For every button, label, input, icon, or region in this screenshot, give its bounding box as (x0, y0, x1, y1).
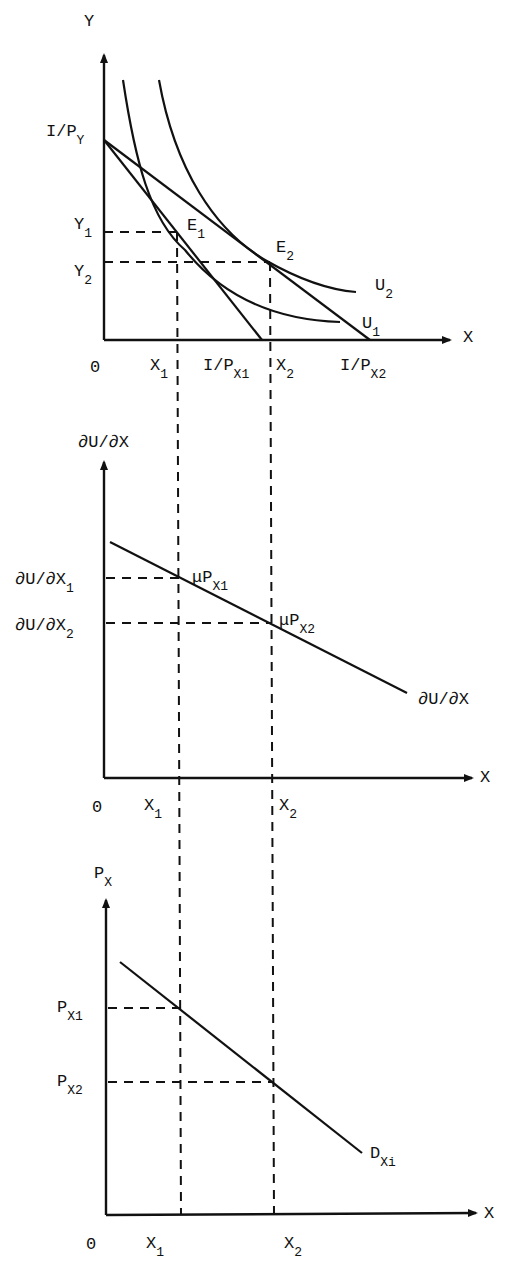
x-axis-label: X (480, 768, 490, 787)
y2-label: Y2 (74, 262, 92, 288)
demand-curve (120, 962, 362, 1153)
mu2-label: ∂U/∂X2 (15, 616, 74, 642)
intercept-y-label: I/PY (46, 122, 85, 148)
x2-label: X2 (279, 796, 297, 822)
p2-label: PX2 (57, 1072, 83, 1098)
y-axis-label: Y (84, 12, 94, 31)
x2-label: X2 (284, 1234, 302, 1260)
origin-label: 0 (90, 358, 100, 377)
intercept-x1-label: I/PX1 (203, 356, 249, 382)
y1-label: Y1 (74, 215, 92, 241)
point1-label: μPX1 (192, 568, 228, 594)
x1-label: X1 (146, 1234, 164, 1260)
panel-indifference: Y X 0 I/PY Y1 Y2 E1 E2 U2 U1 X1 I/PX1 X2… (46, 12, 473, 382)
x1-label: X1 (144, 796, 162, 822)
origin-label: 0 (92, 798, 102, 817)
origin-label: 0 (86, 1235, 96, 1254)
y-axis-label: PX (94, 864, 112, 890)
u2-label: U2 (375, 276, 393, 302)
y-axis-label: ∂U/∂X (78, 433, 129, 452)
indifference-curve-u2 (159, 80, 356, 292)
curve-label: ∂U/∂X (418, 690, 469, 709)
x2-vertical-guide (270, 262, 274, 1215)
p1-label: PX1 (57, 998, 83, 1024)
point2-label: μPX2 (279, 611, 315, 637)
indifference-curve-u1 (123, 80, 340, 322)
panel-marginal-utility: ∂U/∂X X 0 ∂U/∂X1 ∂U/∂X2 μPX1 μPX2 ∂U/∂X … (15, 433, 490, 822)
panel-demand: PX X 0 PX1 PX2 DXi X1 X2 (57, 864, 494, 1260)
x-axis-label: X (484, 1204, 494, 1223)
mu1-label: ∂U/∂X1 (15, 570, 74, 596)
marginal-utility-line (110, 542, 407, 693)
e1-label: E1 (187, 216, 205, 242)
x-axis-label: X (463, 328, 473, 347)
x1-vertical-guide (177, 232, 181, 1215)
curve-label: DXi (370, 1144, 396, 1170)
diagram-canvas: Y X 0 I/PY Y1 Y2 E1 E2 U2 U1 X1 I/PX1 X2… (0, 0, 509, 1265)
x2-label: X2 (276, 356, 294, 382)
x-axis (106, 1213, 476, 1215)
x1-label: X1 (150, 356, 168, 382)
e2-label: E2 (276, 238, 294, 264)
intercept-x2-label: I/PX2 (340, 356, 386, 382)
